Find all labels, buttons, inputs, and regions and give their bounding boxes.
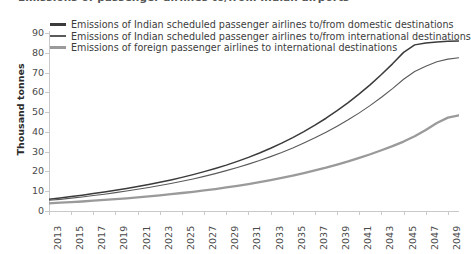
x-tick-label: 2031 — [252, 226, 262, 250]
x-tick-mark — [293, 211, 294, 215]
x-tick-label: 2015 — [75, 226, 85, 250]
x-tick-label: 2049 — [452, 226, 462, 250]
y-axis-title: Thousand tonnes — [15, 72, 26, 156]
x-tick-label: 2027 — [208, 226, 218, 250]
x-tick-mark — [160, 211, 161, 215]
x-tick-label: 2047 — [430, 226, 440, 250]
x-tick-mark — [71, 211, 72, 215]
x-tick-mark — [426, 211, 427, 215]
x-tick-label: 2035 — [297, 226, 307, 250]
x-tick-label: 2039 — [341, 226, 351, 250]
series-line — [49, 41, 459, 199]
x-tick-label: 2019 — [119, 226, 129, 250]
x-tick-label: 2025 — [186, 226, 196, 250]
x-tick-mark — [359, 211, 360, 215]
legend-item[interactable]: Emissions of Indian scheduled passenger … — [50, 19, 462, 31]
x-tick-label: 2021 — [142, 226, 152, 250]
legend-item-label: Emissions of foreign passenger airlines … — [71, 42, 397, 54]
x-axis-line — [49, 211, 459, 212]
x-tick-label: 2013 — [53, 226, 63, 250]
plot-area — [49, 33, 459, 211]
legend-swatch-foreign — [50, 46, 66, 49]
y-tick-label: 10 — [18, 186, 44, 196]
legend-item[interactable]: Emissions of foreign passenger airlines … — [50, 42, 462, 54]
series-lines-svg — [49, 33, 459, 211]
x-tick-mark — [182, 211, 183, 215]
x-tick-mark — [93, 211, 94, 215]
x-tick-mark — [337, 211, 338, 215]
legend-item-label: Emissions of Indian scheduled passenger … — [71, 19, 454, 31]
series-line — [49, 58, 459, 201]
x-tick-mark — [448, 211, 449, 215]
x-tick-mark — [49, 211, 50, 215]
y-tick-label: 0 — [18, 206, 44, 216]
x-tick-mark — [115, 211, 116, 215]
y-tick-label: 20 — [18, 166, 44, 176]
x-tick-mark — [381, 211, 382, 215]
x-tick-label: 2023 — [164, 226, 174, 250]
y-tick-label: 90 — [18, 28, 44, 38]
legend-item[interactable]: Emissions of Indian scheduled passenger … — [50, 31, 462, 43]
x-tick-mark — [226, 211, 227, 215]
x-tick-mark — [138, 211, 139, 215]
x-tick-label: 2037 — [319, 226, 329, 250]
x-tick-mark — [248, 211, 249, 215]
x-tick-label: 2029 — [230, 226, 240, 250]
legend-swatch-domestic — [50, 23, 66, 26]
x-tick-label: 2041 — [363, 226, 373, 250]
x-tick-label: 2033 — [275, 226, 285, 250]
x-tick-label: 2045 — [408, 226, 418, 250]
legend-swatch-international — [50, 35, 66, 37]
x-tick-mark — [271, 211, 272, 215]
x-tick-mark — [315, 211, 316, 215]
chart-title-clipped: Emissions of passenger airlines to/from … — [18, 0, 349, 3]
x-tick-label: 2017 — [97, 226, 107, 250]
chart-legend: Emissions of Indian scheduled passenger … — [50, 19, 462, 54]
y-axis-labels: 0102030405060708090 — [8, 0, 44, 254]
x-tick-mark — [204, 211, 205, 215]
x-tick-label: 2043 — [385, 226, 395, 250]
legend-item-label: Emissions of Indian scheduled passenger … — [71, 31, 471, 43]
x-tick-mark — [404, 211, 405, 215]
series-line — [49, 115, 459, 203]
y-tick-label: 80 — [18, 48, 44, 58]
